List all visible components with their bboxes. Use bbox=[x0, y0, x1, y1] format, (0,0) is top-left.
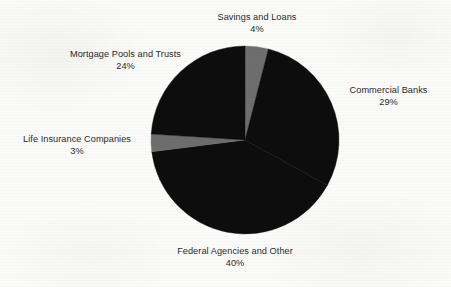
slice-label-percent: 24% bbox=[38, 61, 213, 73]
slice-label-life-insurance-companies: Life Insurance Companies 3% bbox=[2, 134, 152, 157]
slice-label-percent: 4% bbox=[197, 24, 317, 36]
pie-chart: Savings and Loans 4% Commercial Banks 29… bbox=[0, 0, 451, 287]
slice-label-mortgage-pools-and-trusts: Mortgage Pools and Trusts 24% bbox=[38, 49, 213, 72]
slice-label-name: Mortgage Pools and Trusts bbox=[38, 49, 213, 61]
slice-label-commercial-banks: Commercial Banks 29% bbox=[331, 85, 446, 108]
slice-label-savings-and-loans: Savings and Loans 4% bbox=[197, 12, 317, 35]
pie-slice-group bbox=[151, 46, 339, 234]
slice-label-percent: 40% bbox=[155, 258, 315, 270]
slice-label-name: Commercial Banks bbox=[331, 85, 446, 97]
slice-label-name: Life Insurance Companies bbox=[2, 134, 152, 146]
slice-label-name: Savings and Loans bbox=[197, 12, 317, 24]
slice-label-name: Federal Agencies and Other bbox=[155, 246, 315, 258]
slice-label-percent: 3% bbox=[2, 146, 152, 158]
slice-label-federal-agencies-and-other: Federal Agencies and Other 40% bbox=[155, 246, 315, 269]
slice-label-percent: 29% bbox=[331, 97, 446, 109]
